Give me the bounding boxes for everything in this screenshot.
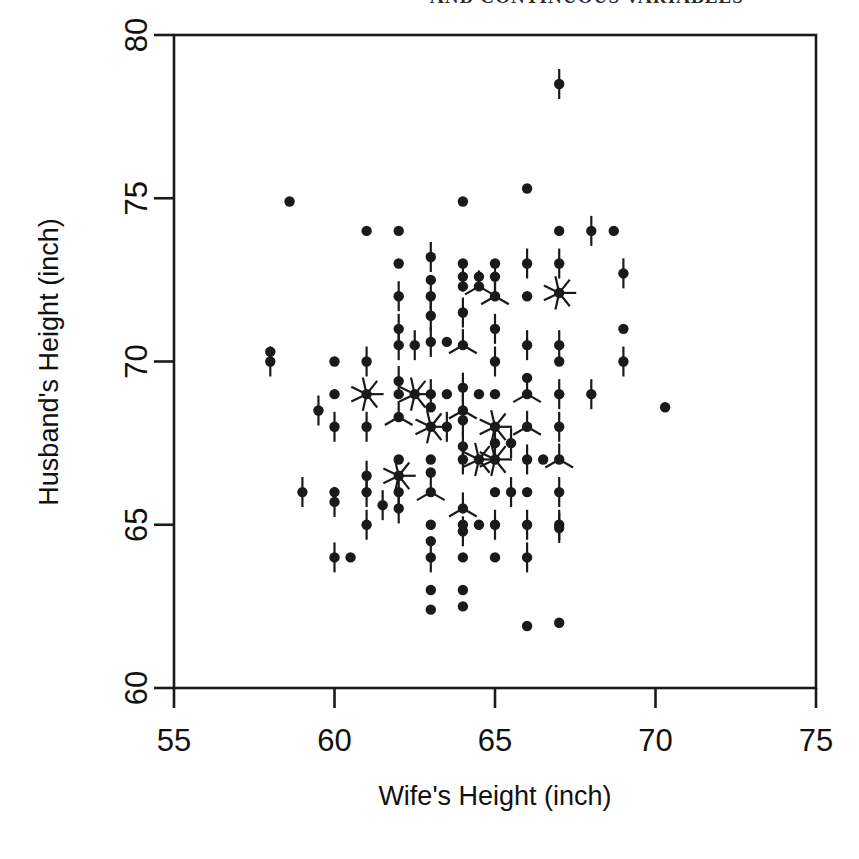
data-point xyxy=(377,500,387,510)
sunflower-marker xyxy=(458,585,468,595)
x-axis-ticks xyxy=(174,688,816,708)
data-point xyxy=(394,503,404,513)
sunflower-marker xyxy=(458,552,468,562)
sunflower-marker xyxy=(394,281,404,311)
data-point xyxy=(265,356,275,366)
sunflower-marker xyxy=(426,604,436,614)
sunflower-marker xyxy=(490,487,500,497)
data-point xyxy=(522,454,532,464)
y-tick-label-60: 60 xyxy=(119,671,154,705)
data-point xyxy=(522,183,532,193)
sunflower-marker xyxy=(554,477,564,507)
data-point xyxy=(522,258,532,268)
data-point xyxy=(426,520,436,530)
data-point xyxy=(586,226,596,236)
data-point xyxy=(361,520,371,530)
data-point xyxy=(490,520,500,530)
data-point xyxy=(522,621,532,631)
data-point xyxy=(554,389,564,399)
sunflower-marker xyxy=(361,510,371,540)
sunflower-marker xyxy=(426,242,436,272)
sunflower-marker xyxy=(554,356,564,366)
sunflower-marker xyxy=(586,216,596,246)
data-point xyxy=(313,405,323,415)
sunflower-marker xyxy=(554,226,564,236)
data-point xyxy=(361,356,371,366)
data-point xyxy=(618,268,628,278)
sunflower-marker xyxy=(618,324,628,334)
y-tick-label-80: 80 xyxy=(119,18,154,52)
sunflower-marker xyxy=(361,477,371,507)
sunflower-marker xyxy=(522,444,532,474)
sunflower-marker xyxy=(394,493,404,523)
sunflower-marker xyxy=(513,411,541,435)
data-point xyxy=(394,258,404,268)
sunflower-marker xyxy=(426,520,436,530)
data-point xyxy=(442,422,452,432)
sunflower-marker xyxy=(329,356,339,366)
data-point xyxy=(458,526,468,536)
sunflower-marker xyxy=(449,492,477,516)
data-point xyxy=(458,585,468,595)
sunflower-marker xyxy=(297,477,307,507)
sunflower-marker xyxy=(522,249,532,279)
data-point xyxy=(490,324,500,334)
data-point xyxy=(554,523,564,533)
data-point xyxy=(426,454,436,464)
sunflower-marker xyxy=(522,330,532,360)
data-point xyxy=(458,552,468,562)
data-point xyxy=(554,618,564,628)
data-point xyxy=(284,196,294,206)
y-tick-label-65: 65 xyxy=(119,508,154,542)
sunflower-marker xyxy=(554,69,564,99)
sunflower-marker xyxy=(442,337,452,347)
sunflower-marker xyxy=(474,520,484,530)
data-point xyxy=(458,454,468,464)
data-point xyxy=(458,415,468,425)
x-tick-label-70: 70 xyxy=(638,723,672,758)
sunflower-marker xyxy=(522,542,532,572)
data-point xyxy=(426,422,436,432)
data-point xyxy=(618,356,628,366)
sunflower-marker xyxy=(329,389,339,399)
sunflower-marker xyxy=(410,330,420,360)
data-point xyxy=(329,356,339,366)
data-point xyxy=(474,520,484,530)
sunflower-marker xyxy=(426,327,436,357)
data-point xyxy=(490,389,500,399)
sunflower-marker xyxy=(345,552,355,562)
data-point xyxy=(522,520,532,530)
sunflower-marker xyxy=(554,513,564,543)
data-point xyxy=(522,389,532,399)
sunflower-marker xyxy=(506,428,516,458)
data-point xyxy=(554,340,564,350)
sunflower-marker xyxy=(361,412,371,442)
sunflower-marker xyxy=(449,329,477,353)
plot-canvas: 5560657075 6065707580 Wife's Height (inc… xyxy=(0,0,859,859)
sunflower-marker xyxy=(490,314,500,344)
data-point xyxy=(297,487,307,497)
sunflower-marker xyxy=(586,379,596,409)
data-point xyxy=(554,356,564,366)
data-point xyxy=(474,281,484,291)
data-point xyxy=(329,552,339,562)
data-point xyxy=(554,487,564,497)
data-point xyxy=(458,196,468,206)
sunflower-marker xyxy=(490,510,500,540)
data-point xyxy=(361,389,371,399)
sunflower-marker xyxy=(490,389,500,399)
data-point xyxy=(554,226,564,236)
data-point xyxy=(361,226,371,236)
data-point xyxy=(458,307,468,317)
sunflower-marker xyxy=(426,542,436,572)
sunflower-marker xyxy=(490,347,500,377)
sunflower-marker xyxy=(490,552,500,562)
data-point xyxy=(426,291,436,301)
sunflower-marker xyxy=(481,280,509,304)
sunflower-marker xyxy=(313,395,323,425)
sunflower-marker xyxy=(426,454,436,464)
data-point xyxy=(458,601,468,611)
data-point xyxy=(442,337,452,347)
data-point xyxy=(458,503,468,513)
data-point xyxy=(410,340,420,350)
